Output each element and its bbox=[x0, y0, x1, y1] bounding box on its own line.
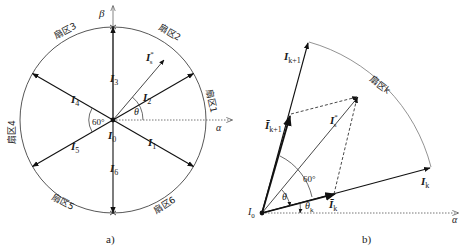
alpha-label-b: α bbox=[452, 214, 458, 225]
label-i4: I4 bbox=[70, 93, 79, 108]
vector-i2 bbox=[113, 74, 194, 121]
label-ik1: Ik+1 bbox=[283, 50, 301, 65]
label-i2: I2 bbox=[142, 91, 151, 106]
caption-b: b) bbox=[362, 233, 372, 246]
origin-dot-b bbox=[260, 211, 265, 216]
dashed-from-ik1bar bbox=[291, 97, 357, 114]
sector-4-label: 扇区4 bbox=[6, 120, 17, 144]
vector-ik-bar bbox=[262, 194, 335, 213]
sector-6-label: 扇区6 bbox=[151, 194, 177, 216]
angle-theta-label-b: θ bbox=[282, 191, 287, 202]
label-is-ref-b: I*s bbox=[329, 113, 338, 129]
label-ik-bar: Īk bbox=[328, 198, 337, 213]
label-is-ref: I*s bbox=[145, 50, 154, 66]
sector-2-label: 扇区2 bbox=[157, 21, 183, 42]
angle-theta-k-label: θk bbox=[305, 200, 314, 214]
sector-5-label: 扇区5 bbox=[50, 191, 76, 212]
origin-dot bbox=[111, 118, 116, 123]
angle-60-label-b: 60° bbox=[303, 174, 316, 184]
label-i1: I1 bbox=[147, 136, 156, 151]
label-ik: Ik bbox=[420, 175, 429, 190]
label-origin-b: I0 bbox=[247, 206, 255, 220]
caption-a: a) bbox=[106, 233, 115, 246]
figure-b: α 扇区k Ik+1 Īk+1 I*s Ik Īk I0 60° θ θk b) bbox=[247, 42, 458, 246]
beta-label: β bbox=[98, 7, 105, 19]
angle-theta-label: θ bbox=[134, 106, 139, 117]
label-i6: I6 bbox=[109, 162, 118, 177]
label-i3: I3 bbox=[109, 72, 118, 87]
label-ik1-bar: Īk+1 bbox=[264, 119, 282, 134]
angle-60-label: 60° bbox=[92, 117, 105, 127]
label-i0: I0 bbox=[107, 129, 116, 144]
sector-1-label: 扇区1 bbox=[204, 88, 220, 114]
label-i5: I5 bbox=[70, 140, 79, 155]
alpha-label: α bbox=[216, 122, 222, 133]
sector-3-label: 扇区3 bbox=[52, 20, 78, 41]
figure-a: β α I3 I2 I4 I5 I1 I0 I6 I*s 60° θ 扇区3 扇… bbox=[6, 6, 232, 246]
sector-k-label: 扇区k bbox=[368, 73, 394, 96]
